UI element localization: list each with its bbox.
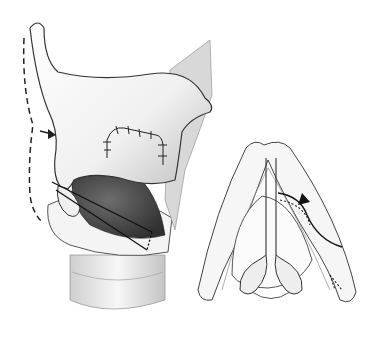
larynx-illustration [0,0,385,339]
illustration-canvas [0,0,385,339]
superior-view-panel [198,142,356,302]
posterior-commissure [252,292,290,299]
lateral-view-panel [24,23,212,309]
trachea [70,255,165,309]
arrow-icon [40,129,56,139]
